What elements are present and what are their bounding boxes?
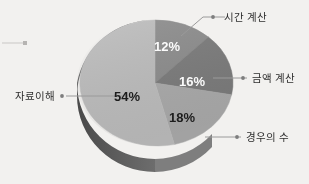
slice-percent-time-calc: 12% bbox=[154, 39, 180, 54]
callout-label-time-calc: 시간 계산 bbox=[224, 11, 267, 23]
bullet-dot-margin-stub bbox=[23, 41, 27, 45]
callout-label-case-count: 경우의 수 bbox=[246, 131, 289, 143]
pie-chart-figure: 시간 계산 금액 계산 경우의 수 자료이해 12% 16% 18% 54% bbox=[0, 0, 309, 184]
bullet-dot-case-count bbox=[235, 135, 239, 139]
bullet-dot-time-calc bbox=[211, 15, 215, 19]
slice-percent-amount-calc: 16% bbox=[179, 74, 205, 89]
bullet-dot-amount-calc bbox=[241, 76, 245, 80]
callout-label-amount-calc: 금액 계산 bbox=[252, 72, 295, 84]
slice-percent-case-count: 18% bbox=[169, 110, 195, 125]
bullet-dot-data-understanding bbox=[60, 94, 64, 98]
callout-label-data-understanding: 자료이해 bbox=[15, 90, 55, 102]
pie-chart-svg: 시간 계산 금액 계산 경우의 수 자료이해 12% 16% 18% 54% bbox=[0, 0, 309, 184]
slice-percent-data-understanding: 54% bbox=[114, 89, 140, 104]
